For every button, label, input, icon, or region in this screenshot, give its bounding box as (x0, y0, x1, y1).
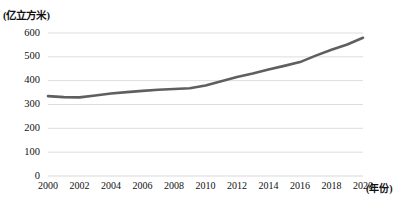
y-axis-tick-label: 100 (14, 146, 40, 157)
y-axis-tick-label: 400 (14, 74, 40, 85)
chart-plot-area (0, 0, 400, 209)
y-axis-tick-label: 500 (14, 50, 40, 61)
y-axis-tick-label: 300 (14, 98, 40, 109)
series-line (48, 38, 363, 98)
y-axis-tick-label: 200 (14, 122, 40, 133)
y-axis-tick-label: 0 (14, 170, 40, 181)
y-axis-tick-label: 600 (14, 27, 40, 38)
data-series-group (48, 38, 363, 98)
chart-container: (亿立方米) 0100200300400500600 2000200220042… (0, 0, 400, 209)
x-axis-title: (年份) (366, 180, 393, 195)
